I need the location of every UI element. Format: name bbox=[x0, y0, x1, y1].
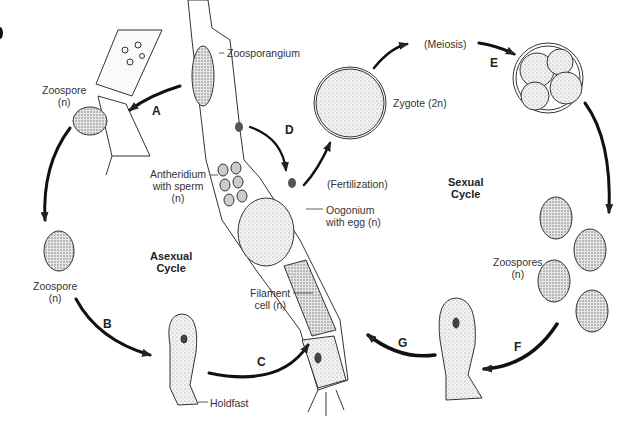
sperm-cell bbox=[235, 122, 243, 132]
text: Filament bbox=[250, 287, 290, 299]
edge-glyph bbox=[0, 27, 3, 39]
main-filament bbox=[188, 0, 348, 416]
text: cell (n) bbox=[250, 299, 290, 311]
label-sexual-cycle: Sexual Cycle bbox=[448, 176, 483, 200]
step-b: B bbox=[103, 317, 112, 331]
arrow-d bbox=[250, 127, 286, 170]
label-meiosis: (Meiosis) bbox=[424, 38, 467, 50]
zoospores-cluster bbox=[538, 197, 608, 332]
life-cycle-artwork bbox=[0, 0, 641, 432]
arrow-b bbox=[76, 299, 150, 355]
text: with egg (n) bbox=[326, 216, 381, 228]
step-a: A bbox=[152, 104, 161, 118]
text: Antheridium bbox=[150, 168, 206, 180]
arrow-meiosis bbox=[374, 44, 407, 68]
zoospore-released bbox=[73, 107, 107, 135]
step-e: E bbox=[490, 56, 498, 70]
label-antheridium: Antheridium with sperm (n) bbox=[150, 168, 206, 204]
arrow-e bbox=[479, 43, 514, 54]
step-d: D bbox=[285, 123, 294, 137]
text: Cycle bbox=[448, 188, 483, 200]
arrow-sexual-down bbox=[585, 103, 609, 212]
label-filament-cell: Filament cell (n) bbox=[250, 287, 290, 311]
germling-asexual bbox=[169, 314, 198, 405]
text: (n) bbox=[150, 192, 206, 204]
text: Zoospore bbox=[42, 84, 86, 96]
germling-sexual bbox=[439, 298, 482, 400]
label-fertilization: (Fertilization) bbox=[327, 178, 388, 190]
label-zygote: Zygote (2n) bbox=[393, 97, 447, 109]
label-asexual-cycle: Asexual Cycle bbox=[150, 250, 192, 274]
zoospore-free bbox=[44, 231, 74, 271]
meiotic-products bbox=[513, 43, 583, 113]
sperm-near-egg bbox=[288, 178, 296, 188]
step-f: F bbox=[514, 340, 521, 354]
text: Sexual bbox=[448, 176, 483, 188]
label-oogonium: Oogonium with egg (n) bbox=[326, 204, 381, 228]
text: Cycle bbox=[150, 262, 192, 274]
text: Zoospores bbox=[493, 256, 543, 268]
step-c: C bbox=[257, 355, 266, 369]
text: Asexual bbox=[150, 250, 192, 262]
text: (n) bbox=[493, 268, 543, 280]
text: (n) bbox=[33, 292, 77, 304]
step-g: G bbox=[398, 336, 407, 350]
text: with sperm bbox=[150, 180, 206, 192]
zygote bbox=[316, 69, 384, 137]
text: Oogonium bbox=[326, 204, 381, 216]
label-zoospore-left: Zoospore (n) bbox=[33, 280, 77, 304]
text: (n) bbox=[42, 96, 86, 108]
label-zoospore-top: Zoospore (n) bbox=[42, 84, 86, 108]
label-zoospores: Zoospores (n) bbox=[493, 256, 543, 280]
label-holdfast: Holdfast bbox=[210, 397, 249, 409]
label-zoosporangium: Zoosporangium bbox=[227, 47, 300, 59]
arrow-asexual-down bbox=[45, 128, 70, 220]
releasing-filament bbox=[96, 30, 162, 175]
text: Zoospore bbox=[33, 280, 77, 292]
